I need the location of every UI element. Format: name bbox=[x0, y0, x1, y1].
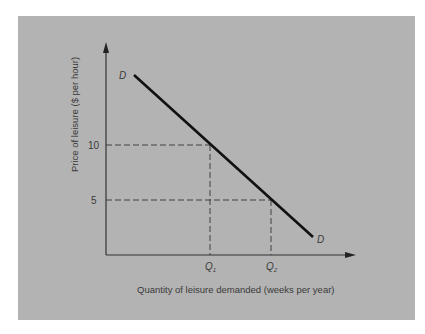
x-tick-q1: Q1 bbox=[205, 261, 216, 273]
x-axis-label: Quantity of leisure demanded (weeks per … bbox=[137, 284, 335, 295]
demand-chart: D D 10 5 Q1 Q2 Quantity of leisure deman… bbox=[0, 0, 425, 334]
curve-end-label: D bbox=[317, 234, 324, 245]
x-tick-q2: Q2 bbox=[266, 261, 278, 273]
y-tick-5: 5 bbox=[91, 195, 97, 206]
curve-start-label: D bbox=[119, 70, 126, 81]
y-tick-10: 10 bbox=[88, 140, 100, 151]
x-axis-arrow-icon bbox=[345, 252, 356, 258]
y-axis-arrow-icon bbox=[103, 42, 109, 53]
demand-curve bbox=[134, 75, 313, 237]
y-axis-label: Price of leisure ($ per hour) bbox=[69, 57, 80, 172]
